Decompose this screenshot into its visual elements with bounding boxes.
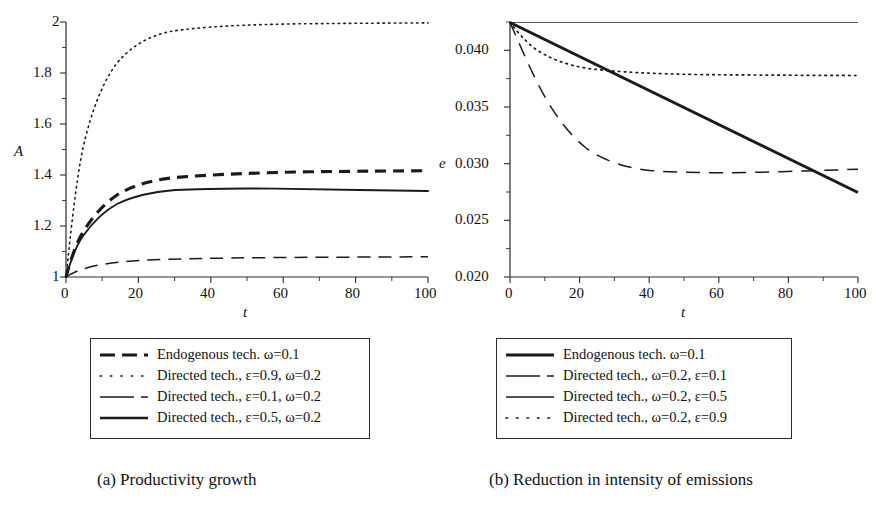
x-tick-a-3: 60: [273, 285, 288, 302]
legend-key-thick-solid-icon: [504, 348, 556, 362]
x-tick-a-4: 80: [345, 285, 360, 302]
legend-item[interactable]: Directed tech., ω=0.2, ε=0.5: [504, 386, 782, 407]
legend-item[interactable]: Directed tech., ε=0.9, ω=0.2: [98, 365, 360, 386]
legend-key-dotted-icon: [504, 411, 556, 425]
y-tick-b-1: 0.025: [455, 211, 489, 228]
legend-label: Directed tech., ε=0.5, ω=0.2: [157, 409, 321, 426]
y-minor-ticks-b: [506, 22, 510, 249]
y-tick-b-4: 0.040: [455, 41, 489, 58]
y-tick-b-3: 0.035: [455, 98, 489, 115]
y-axis-label-a: A: [14, 143, 23, 160]
x-tick-b-5: 100: [844, 285, 867, 302]
legend-key-long-dashed-icon: [504, 369, 556, 383]
x-tick-a-2: 40: [200, 285, 215, 302]
x-tick-b-0: 0: [505, 285, 513, 302]
plot-b-canvas: [438, 0, 876, 320]
y-tick-a-1: 1.8: [33, 64, 52, 81]
series-b-endogenous: [510, 23, 858, 193]
series-b-directed-eps01: [510, 23, 858, 173]
legend-key-dotted-icon: [98, 369, 150, 383]
figure-root: 2 1.8 1.6 1.4 1.2 1 A 0 20 40 60 80 100 …: [0, 0, 876, 526]
legend-label: Directed tech., ω=0.2, ε=0.1: [563, 367, 727, 384]
x-axis-label-a: t: [243, 304, 247, 321]
series-a-directed-eps01: [66, 257, 428, 277]
legend-key-long-dashed-icon: [98, 390, 150, 404]
legend-item[interactable]: Endogenous tech. ω=0.1: [504, 344, 782, 365]
panel-emissions-intensity: 0.040 0.035 0.030 0.025 0.020 e 0 20 40 …: [438, 0, 876, 526]
legend-panel-b: Endogenous tech. ω=0.1 Directed tech., ω…: [496, 338, 792, 439]
y-axis-label-b: e: [439, 155, 446, 172]
caption-panel-a: (a) Productivity growth: [97, 470, 257, 490]
y-tick-a-0: 2: [52, 13, 60, 30]
legend-item[interactable]: Directed tech., ω=0.2, ε=0.1: [504, 365, 782, 386]
legend-key-thick-dashed-icon: [98, 348, 150, 362]
legend-item[interactable]: Directed tech., ε=0.1, ω=0.2: [98, 386, 360, 407]
x-tick-b-3: 60: [709, 285, 724, 302]
y-tick-a-3: 1.4: [33, 166, 52, 183]
legend-panel-a: Endogenous tech. ω=0.1 Directed tech., ε…: [90, 338, 370, 439]
x-tick-a-0: 0: [61, 285, 69, 302]
legend-label: Directed tech., ω=0.2, ε=0.5: [563, 388, 727, 405]
caption-panel-b: (b) Reduction in intensity of emissions: [489, 470, 753, 490]
y-ticks-b: [504, 50, 510, 277]
x-axis-label-b: t: [681, 304, 685, 321]
y-tick-b-0: 0.020: [455, 268, 489, 285]
legend-item[interactable]: Directed tech., ε=0.5, ω=0.2: [98, 407, 360, 428]
legend-key-solid-icon: [98, 411, 150, 425]
series-a-directed-eps09: [66, 23, 428, 277]
x-tick-b-2: 40: [639, 285, 654, 302]
x-tick-b-4: 80: [778, 285, 793, 302]
legend-label: Directed tech., ε=0.1, ω=0.2: [157, 388, 321, 405]
series-a-directed-eps05: [66, 188, 428, 277]
panel-productivity-growth: 2 1.8 1.6 1.4 1.2 1 A 0 20 40 60 80 100 …: [0, 0, 438, 526]
plot-a-canvas: [0, 0, 438, 320]
legend-label: Endogenous tech. ω=0.1: [563, 346, 706, 363]
legend-key-thin-solid-icon: [504, 390, 556, 404]
legend-item[interactable]: Endogenous tech. ω=0.1: [98, 344, 360, 365]
y-tick-a-4: 1.2: [33, 217, 52, 234]
y-tick-a-2: 1.6: [33, 115, 52, 132]
x-tick-a-1: 20: [128, 285, 143, 302]
series-a-endogenous: [66, 171, 428, 277]
y-tick-b-2: 0.030: [455, 155, 489, 172]
x-tick-b-1: 20: [569, 285, 584, 302]
legend-label: Directed tech., ε=0.9, ω=0.2: [157, 367, 321, 384]
x-tick-a-5: 100: [414, 285, 437, 302]
y-tick-a-5: 1: [52, 268, 60, 285]
legend-item[interactable]: Directed tech., ω=0.2, ε=0.9: [504, 407, 782, 428]
legend-label: Endogenous tech. ω=0.1: [157, 346, 300, 363]
legend-label: Directed tech., ω=0.2, ε=0.9: [563, 409, 727, 426]
